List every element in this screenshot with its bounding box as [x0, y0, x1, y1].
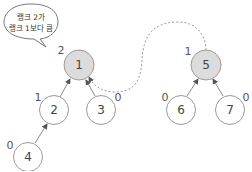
node-5-label: 5 [202, 58, 210, 72]
node-1: 1 2 [58, 44, 95, 81]
edge-4-to-2 [35, 124, 47, 143]
node-3-rank: 0 [115, 91, 122, 104]
node-6-label: 6 [177, 103, 185, 117]
union-find-diagram: 랭크 2가 랭크 1보다 큼 1 2 2 1 3 0 4 0 5 1 6 [0, 0, 252, 171]
node-5: 5 1 [185, 45, 222, 81]
node-6: 6 0 [162, 91, 196, 125]
bubble-text-line2: 랭크 1보다 큼 [9, 23, 54, 33]
node-1-rank: 2 [58, 44, 65, 57]
node-4: 4 0 [7, 139, 43, 172]
node-3-label: 3 [97, 103, 105, 117]
node-1-label: 1 [75, 58, 83, 72]
speech-bubble: 랭크 2가 랭크 1보다 큼 [4, 4, 58, 47]
node-4-label: 4 [24, 150, 32, 164]
edge-7-to-5 [213, 79, 223, 96]
edge-6-to-5 [187, 79, 198, 96]
node-5-rank: 1 [185, 45, 192, 58]
node-2-rank: 1 [35, 91, 42, 104]
node-4-rank: 0 [7, 139, 14, 152]
node-2-label: 2 [50, 103, 58, 117]
edge-3-to-1 [86, 80, 95, 96]
bubble-text-line1: 랭크 2가 [17, 12, 45, 22]
node-3: 3 0 [87, 91, 122, 125]
node-7-rank: 0 [243, 91, 250, 104]
edge-2-to-1 [60, 79, 70, 97]
node-6-rank: 0 [162, 91, 169, 104]
node-7: 7 0 [216, 91, 250, 125]
node-7-label: 7 [226, 103, 234, 117]
node-2: 2 1 [35, 91, 69, 125]
